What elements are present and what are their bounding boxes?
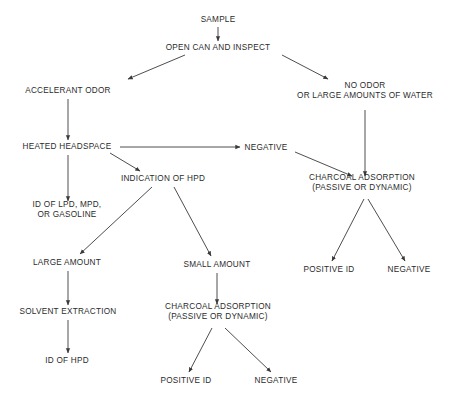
flow-arrow-charcoal_right-to-positive_id_right [332,199,364,261]
flow-arrow-heated_headspace-to-indication_hpd [110,153,140,171]
node-charcoal_bottom: CHARCOAL ADSORPTION(PASSIVE OR DYNAMIC) [165,302,271,322]
flow-arrow-charcoal_bottom-to-negative_bottom [225,328,271,372]
node-no_odor: NO ODOROR LARGE AMOUNTS OF WATER [297,81,433,101]
node-label: POSITIVE ID [304,265,355,274]
node-sample: SAMPLE [201,15,236,25]
node-open_can: OPEN CAN AND INSPECT [166,43,271,53]
node-indication_hpd: INDICATION OF HPD [121,174,205,184]
node-heated_headspace: HEATED HEADSPACE [23,142,112,152]
node-small_amount: SMALL AMOUNT [184,260,251,270]
node-label-secondary: (PASSIVE OR DYNAMIC) [309,183,415,193]
node-label: INDICATION OF HPD [121,174,205,183]
node-label: HEATED HEADSPACE [23,142,112,151]
node-accelerant_odor: ACCELERANT ODOR [25,86,111,96]
node-label: NO ODOR [345,81,386,90]
node-label: OPEN CAN AND INSPECT [166,43,271,52]
node-solvent_extraction: SOLVENT EXTRACTION [19,307,116,317]
flow-arrow-open_can-to-no_odor [282,55,328,79]
node-charcoal_right: CHARCOAL ADSORPTION(PASSIVE OR DYNAMIC) [309,173,415,193]
node-label: LARGE AMOUNT [33,258,101,267]
node-label: SAMPLE [201,15,236,24]
node-negative_bottom: NEGATIVE [255,376,298,386]
node-large_amount: LARGE AMOUNT [33,258,101,268]
node-negative_top: NEGATIVE [245,143,288,153]
flow-arrow-indication_hpd-to-small_amount [174,187,211,256]
flowchart-diagram: SAMPLEOPEN CAN AND INSPECTACCELERANT ODO… [0,0,450,396]
flowchart-edges [0,0,450,396]
node-label: ACCELERANT ODOR [25,86,111,95]
node-label-secondary: OR GASOLINE [33,210,102,220]
node-label: ID OF HPD [45,356,89,365]
node-id_lpd_mpd: ID OF LPD, MPD,OR GASOLINE [33,200,102,220]
node-label: CHARCOAL ADSORPTION [309,173,415,182]
node-positive_id_right: POSITIVE ID [304,265,355,275]
node-label: SMALL AMOUNT [184,260,251,269]
node-label: NEGATIVE [388,265,431,274]
node-label: ID OF LPD, MPD, [33,200,102,209]
node-label: NEGATIVE [245,143,288,152]
node-negative_right: NEGATIVE [388,265,431,275]
node-label: POSITIVE ID [161,376,212,385]
node-label-secondary: (PASSIVE OR DYNAMIC) [165,312,271,322]
node-positive_id_bottom: POSITIVE ID [161,376,212,386]
node-label: SOLVENT EXTRACTION [19,307,116,316]
flow-arrow-indication_hpd-to-large_amount [80,187,152,254]
node-label-secondary: OR LARGE AMOUNTS OF WATER [297,91,433,101]
flow-arrow-open_can-to-accelerant_odor [128,55,185,79]
flow-arrow-charcoal_bottom-to-positive_id_bottom [189,328,212,372]
node-label: CHARCOAL ADSORPTION [165,302,271,311]
flow-arrow-charcoal_right-to-negative_right [368,199,405,261]
node-id_hpd: ID OF HPD [45,356,89,366]
node-label: NEGATIVE [255,376,298,385]
